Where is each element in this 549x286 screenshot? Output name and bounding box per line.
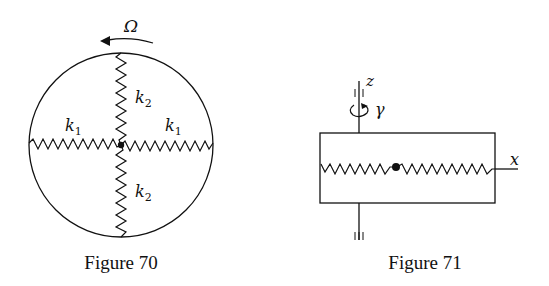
spring-right-k1 [121,141,213,151]
omega-label: Ω [123,16,138,36]
label-k2-bottom: k2 [135,182,152,204]
mass [392,163,400,171]
figure-70: Ω k2 k2 k1 k1 Figure 70 [29,16,213,273]
z-axis-label: z [365,72,374,90]
figure-71-caption: Figure 71 [388,252,461,273]
label-k2-top: k2 [135,88,152,110]
figure-71: z γ x Figure 71 [320,72,519,273]
rotation-arrowhead-icon [100,36,110,46]
spring-left-k1 [29,139,121,149]
x-axis-label: x [510,150,519,169]
central-mass [118,142,124,148]
diagram-canvas: Ω k2 k2 k1 k1 Figure 70 z γ [0,0,549,286]
spring-bottom-k2 [116,145,126,237]
spring-along-x [321,164,495,174]
gamma-label: γ [375,100,385,119]
figure-70-caption: Figure 70 [84,252,157,273]
rotating-frame [320,133,495,203]
spring-top-k2 [116,53,126,145]
label-k1-left: k1 [65,116,82,138]
label-k1-right: k1 [165,116,182,138]
axis-parallel-marks-bottom-icon [355,232,363,240]
rotation-arrow [108,39,153,43]
